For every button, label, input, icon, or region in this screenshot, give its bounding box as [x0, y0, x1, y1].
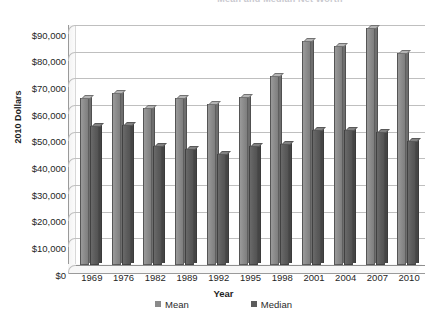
bar-median-1982[interactable]: [153, 146, 162, 265]
bar-top: [81, 95, 94, 99]
bar-face: [239, 97, 248, 265]
bar-mean-2001[interactable]: [302, 41, 311, 265]
bar-mean-1982[interactable]: [143, 108, 152, 265]
bar-mean-2004[interactable]: [334, 46, 343, 265]
bar-side: [258, 144, 261, 263]
bar-top: [91, 123, 104, 127]
gridline-wall-cap: [68, 78, 76, 87]
bar-side: [385, 130, 388, 263]
y-axis-tick-label: $90,000: [8, 30, 66, 41]
bar-face: [376, 132, 385, 265]
bar-group: [393, 25, 425, 265]
bar-face: [407, 141, 416, 265]
bar-face: [302, 41, 311, 265]
bar-top: [176, 95, 189, 99]
bar-median-1989[interactable]: [185, 149, 194, 265]
bar-median-1969[interactable]: [90, 126, 99, 265]
bar-side: [194, 147, 197, 263]
bar-top: [408, 138, 421, 142]
y-axis-tick-label: $30,000: [8, 190, 66, 201]
legend-item-median[interactable]: Median: [251, 299, 292, 310]
bar-group: [330, 25, 362, 265]
bar-face: [153, 146, 162, 265]
bar-median-1995[interactable]: [249, 146, 258, 265]
bar-face: [175, 98, 184, 265]
gridline-wall-cap: [68, 185, 76, 194]
bar-face: [80, 98, 89, 265]
bar-mean-1989[interactable]: [175, 98, 184, 265]
bar-face: [249, 146, 258, 265]
bar-mean-1992[interactable]: [207, 104, 216, 265]
bar-top: [398, 50, 411, 54]
legend-label: Median: [261, 299, 292, 310]
gridline-wall-cap: [68, 158, 76, 167]
y-axis-tick-label: $70,000: [8, 83, 66, 94]
bar-mean-2010[interactable]: [397, 53, 406, 265]
bar-top: [250, 143, 263, 147]
bar-chart: Mean and Median Net Worth 2010 Dollars $…: [0, 0, 447, 315]
chart-legend: MeanMedian: [0, 296, 447, 312]
gridline-wall-cap: [68, 212, 76, 221]
bar-top: [240, 94, 253, 98]
bar-group: [298, 25, 330, 265]
x-axis-tick-label: 2010: [389, 272, 429, 283]
bar-mean-2007[interactable]: [366, 28, 375, 265]
gridline: [76, 265, 425, 266]
bar-side: [416, 139, 419, 263]
bar-face: [217, 154, 226, 265]
gridline-wall-cap: [68, 52, 76, 61]
bar-side: [131, 123, 134, 263]
bar-side: [321, 128, 324, 263]
bar-group: [108, 25, 140, 265]
bar-group: [76, 25, 108, 265]
plot-left-wall: [68, 25, 76, 265]
bar-face: [207, 104, 216, 265]
bar-median-1976[interactable]: [122, 125, 131, 265]
bar-top: [367, 25, 380, 29]
bar-face: [344, 130, 353, 265]
bar-top: [154, 143, 167, 147]
bar-face: [185, 149, 194, 265]
bar-median-2004[interactable]: [344, 130, 353, 265]
plot-area: [76, 25, 425, 265]
bar-median-2001[interactable]: [312, 130, 321, 265]
bar-group: [139, 25, 171, 265]
bar-face: [270, 76, 279, 265]
gridline-wall-cap: [68, 25, 76, 34]
bar-top: [123, 122, 136, 126]
bar-group: [171, 25, 203, 265]
bar-side: [162, 144, 165, 263]
chart-title: Mean and Median Net Worth: [150, 0, 410, 4]
bar-side: [289, 142, 292, 263]
legend-swatch-icon: [251, 301, 257, 307]
bar-top: [345, 127, 358, 131]
legend-swatch-icon: [155, 301, 161, 307]
bar-face: [397, 53, 406, 265]
bar-top: [313, 127, 326, 131]
y-axis-tick-label: $10,000: [8, 243, 66, 254]
bar-face: [312, 130, 321, 265]
legend-item-mean[interactable]: Mean: [155, 299, 189, 310]
y-axis-tick-label: $0: [8, 270, 66, 281]
bar-median-1998[interactable]: [280, 144, 289, 265]
bar-median-2010[interactable]: [407, 141, 416, 265]
bar-face: [280, 144, 289, 265]
bar-mean-1998[interactable]: [270, 76, 279, 265]
bar-median-1992[interactable]: [217, 154, 226, 265]
bar-top: [208, 101, 221, 105]
bar-face: [122, 125, 131, 265]
y-axis-tick-label: $40,000: [8, 163, 66, 174]
gridline-wall-cap: [68, 238, 76, 247]
bar-top: [113, 90, 126, 94]
bar-top: [186, 146, 199, 150]
bar-mean-1969[interactable]: [80, 98, 89, 265]
bar-face: [112, 93, 121, 265]
bar-side: [353, 128, 356, 263]
bar-median-2007[interactable]: [376, 132, 385, 265]
bar-mean-1995[interactable]: [239, 97, 248, 265]
bar-group: [203, 25, 235, 265]
bar-mean-1976[interactable]: [112, 93, 121, 265]
bar-top: [377, 129, 390, 133]
bar-top: [281, 141, 294, 145]
bar-face: [90, 126, 99, 265]
